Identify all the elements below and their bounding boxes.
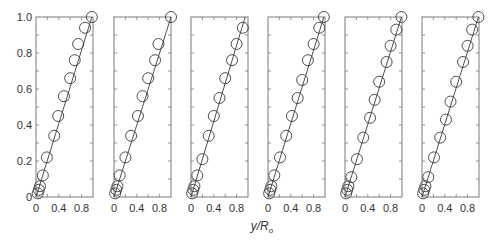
data-point-marker (132, 111, 143, 122)
x-tick-label: 0 (111, 202, 117, 214)
data-point-marker (53, 111, 64, 122)
y-tick-label: 0 (26, 191, 32, 203)
data-point-marker (308, 39, 319, 50)
data-point-marker (126, 130, 137, 141)
x-tick-label: 0.4 (437, 202, 452, 214)
chart-figure: 00.20.40.60.81.0 00.40.800.40.800.40.800… (0, 0, 496, 240)
data-point-marker (374, 76, 385, 87)
data-point-marker (33, 184, 44, 195)
y-tick-label: 0.2 (17, 155, 32, 167)
data-point-marker (385, 40, 396, 51)
data-point-marker (73, 39, 84, 50)
x-tick-label: 0.4 (206, 202, 221, 214)
y-tick-label: 0.8 (17, 47, 32, 59)
data-point-marker (462, 40, 473, 51)
fit-line (345, 17, 401, 197)
x-tick-label: 0.4 (129, 202, 144, 214)
y-axis-tick-labels: 00.20.40.60.81.0 (17, 11, 32, 203)
panel-6: 00.40.8 (418, 12, 484, 215)
chart-panels: 00.40.800.40.800.40.800.40.800.40.800.40… (32, 12, 484, 215)
y-tick-label: 1.0 (17, 11, 32, 23)
fit-line (114, 17, 171, 197)
x-tick-label: 0.8 (229, 202, 244, 214)
data-point-marker (381, 57, 392, 68)
x-tick-label: 0.8 (152, 202, 167, 214)
x-tick-label: 0.4 (360, 202, 375, 214)
x-tick-label: 0 (188, 202, 194, 214)
data-point-marker (451, 76, 462, 87)
data-point-marker (297, 75, 308, 86)
panel-5: 00.40.8 (341, 12, 407, 215)
data-point-marker (65, 73, 76, 84)
x-tick-label: 0 (265, 202, 271, 214)
x-axis-label: y/Ro (250, 219, 274, 235)
x-tick-label: 0.4 (51, 202, 66, 214)
data-point-marker (150, 55, 161, 66)
x-tick-label: 0.8 (460, 202, 475, 214)
data-point-marker (58, 91, 69, 102)
panel-4: 00.40.8 (264, 12, 330, 215)
panel-1: 00.40.8 (32, 12, 97, 215)
data-point-marker (302, 55, 313, 66)
data-point-marker (467, 24, 478, 35)
x-tick-label: 0.8 (306, 202, 321, 214)
x-tick-label: 0.8 (383, 202, 398, 214)
x-tick-label: 0.4 (283, 202, 298, 214)
panel-3: 00.40.8 (187, 17, 249, 214)
x-tick-label: 0.8 (74, 202, 89, 214)
y-tick-label: 0.4 (17, 119, 32, 131)
x-tick-label: 0 (342, 202, 348, 214)
x-tick-label: 0 (33, 202, 39, 214)
x-tick-label: 0 (419, 202, 425, 214)
panel-2: 00.40.8 (110, 12, 177, 215)
y-tick-label: 0.6 (17, 83, 32, 95)
